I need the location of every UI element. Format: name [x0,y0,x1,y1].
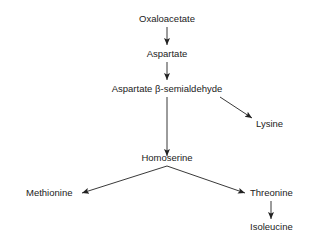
arrow-semialdehyde-to-lysine [220,97,252,118]
arrow-homoserine-to-threonine [167,166,245,193]
node-aspartate: Aspartate [147,48,188,60]
node-threonine: Threonine [250,187,293,199]
node-aspartate-semialdehyde: Aspartate β-semialdehyde [112,83,223,95]
aspartate-pathway-diagram: Oxaloacetate Aspartate Aspartate β-semia… [0,0,314,250]
arrow-homoserine-to-methionine [82,166,167,193]
node-lysine: Lysine [256,118,283,130]
node-oxaloacetate: Oxaloacetate [139,13,195,25]
node-methionine: Methionine [26,187,72,199]
node-isoleucine: Isoleucine [250,221,293,233]
node-homoserine: Homoserine [141,152,192,164]
